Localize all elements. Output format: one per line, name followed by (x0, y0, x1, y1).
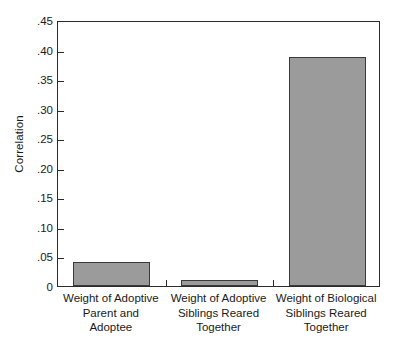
x-category-label-line: Siblings Reared (166, 306, 272, 321)
x-category-label-line: Weight of Adoptive (166, 291, 272, 306)
y-axis-title: Correlation (8, 0, 30, 287)
y-tick-mark (58, 258, 64, 259)
x-tick-mark (166, 280, 167, 286)
x-category-label: Weight of AdoptiveParent andAdoptee (57, 291, 165, 351)
y-tick-label: .25 (22, 133, 53, 145)
x-category-label-line: Together (166, 320, 272, 335)
x-category-label-line: Adoptee (58, 320, 164, 335)
x-axis-category-labels: Weight of AdoptiveParent andAdopteeWeigh… (57, 291, 380, 351)
bar (289, 57, 366, 286)
y-tick-label: .15 (22, 192, 53, 204)
x-category-label: Weight of AdoptiveSiblings RearedTogethe… (165, 291, 273, 351)
y-tick-label: 0 (22, 281, 53, 293)
y-tick-label: .35 (22, 74, 53, 86)
x-category-label-line: Weight of Biological (273, 291, 379, 306)
bar (73, 262, 150, 286)
y-tick-label: .40 (22, 45, 53, 57)
x-category-label: Weight of BiologicalSiblings RearedToget… (272, 291, 380, 351)
y-tick-mark (58, 199, 64, 200)
y-axis-title-text: Correlation (13, 115, 25, 172)
x-category-label-line: Together (273, 320, 379, 335)
y-tick-label: .10 (22, 222, 53, 234)
x-category-label-line: Weight of Adoptive (58, 291, 164, 306)
bar (181, 280, 258, 286)
x-tick-mark (273, 280, 274, 286)
y-axis-tick-labels: .45.40.35.30.25.20.15.10.050 (22, 0, 53, 354)
y-tick-mark (58, 111, 64, 112)
bar-chart-figure: Correlation .45.40.35.30.25.20.15.10.050… (0, 0, 398, 354)
y-tick-label: .45 (22, 15, 53, 27)
x-category-label-line: Siblings Reared (273, 306, 379, 321)
y-tick-mark (58, 170, 64, 171)
plot-area (57, 21, 380, 287)
y-tick-mark (58, 81, 64, 82)
y-tick-label: .05 (22, 251, 53, 263)
y-tick-label: .20 (22, 163, 53, 175)
y-tick-mark (58, 229, 64, 230)
y-tick-label: .30 (22, 104, 53, 116)
y-tick-mark (58, 52, 64, 53)
y-tick-mark (58, 140, 64, 141)
x-category-label-line: Parent and (58, 306, 164, 321)
